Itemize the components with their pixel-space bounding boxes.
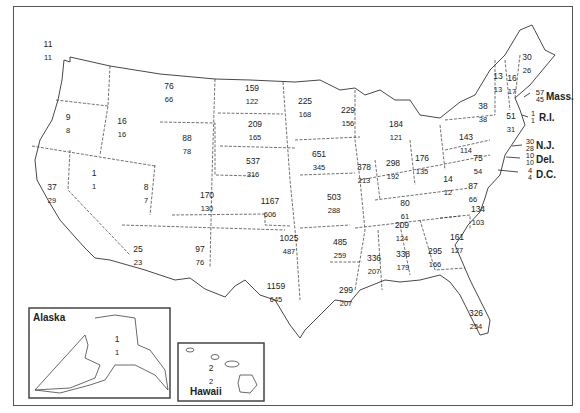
state-label-maine: 3026 [522,51,531,77]
state-label-texas: 1159645 [267,280,285,306]
state-label-georgia: 295166 [428,245,442,271]
state-label-wyoming: 8878 [182,132,191,158]
state-label-michigan: 184121 [389,118,403,144]
state-label-connecticut: 5131 [506,110,515,136]
us-map-outline [0,0,580,413]
state-label-california: 3729 [47,181,56,207]
callout-rhode-island: 11 [531,110,535,124]
state-label-maryland: 7554 [473,152,482,178]
alaska-title: Alaska [33,312,65,323]
callout-abbr-dc: D.C. [536,169,556,180]
state-label-florida: 326254 [469,307,483,333]
state-label-indiana: 298192 [386,157,400,183]
hawaii-title: Hawaii [190,386,222,397]
state-label-north-dakota: 159122 [245,82,259,108]
state-label-new-hampshire: 1617 [507,72,516,98]
state-label-nebraska: 537316 [246,155,260,181]
state-label-nevada: 11 [92,167,97,193]
state-label-iowa: 651345 [312,148,326,174]
state-label-missouri: 503288 [327,191,341,217]
state-label-kansas: 1167606 [261,195,279,221]
state-label-mississippi: 336207 [367,252,381,278]
callout-abbr-nj: N.J. [536,140,554,151]
state-label-vermont: 1313 [493,70,502,96]
state-label-utah: 87 [144,181,149,207]
state-label-pennsylvania: 143114 [459,131,473,157]
state-label-minnesota: 225168 [298,95,312,121]
state-label-arizona: 2523 [133,243,142,269]
state-label-oklahoma: 1025487 [280,232,299,258]
state-label-idaho: 1616 [117,115,126,141]
state-label-washington: 1111 [44,38,53,64]
state-label-colorado: 170130 [200,189,214,215]
callout-delaware: 1010 [526,152,534,166]
state-label-arkansas: 485259 [333,236,347,262]
state-label-west-virginia: 1412 [443,173,452,199]
state-label-ohio: 176135 [415,152,429,178]
state-label-tennessee: 209124 [395,219,409,245]
callout-new-jersey: 3028 [526,138,534,152]
state-label-new-york: 3838 [478,100,487,126]
state-label-wisconsin: 229156 [341,104,355,130]
state-label-south-dakota: 209165 [248,118,262,144]
state-label-virginia: 8766 [468,180,477,206]
state-label-oregon: 98 [66,111,71,137]
callout-massachusetts: 5745 [536,89,544,103]
state-label-north-carolina: 134103 [471,203,485,229]
callout-abbr-ri: R.I. [539,112,555,123]
state-label-south-carolina: 161127 [450,231,464,257]
callout-district-of-columbia: 44 [528,167,532,181]
state-label-illinois: 378213 [357,161,371,187]
state-label-new-mexico: 9776 [195,243,204,269]
callout-abbr-mass: Mass. [546,91,574,102]
state-label-montana: 7666 [164,80,173,106]
state-label-louisiana: 299207 [339,284,353,310]
state-label-alabama: 338179 [396,248,410,274]
alaska-values: 1 1 [115,333,120,359]
callout-abbr-del: Del. [536,154,554,165]
hawaii-values: 2 2 [209,362,214,388]
